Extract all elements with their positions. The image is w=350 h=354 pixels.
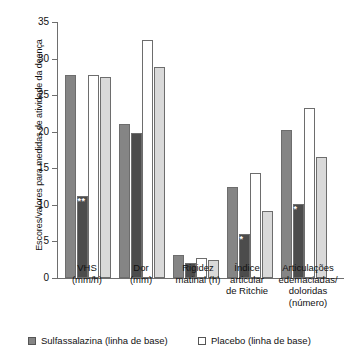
legend-label-sulfassalazina: Sulfassalazina (linha de base) — [41, 335, 168, 346]
legend-swatch-icon-sulfassalazina — [28, 337, 36, 345]
plot-area: 0 5 10 15 20 25 30 35 ** * * — [57, 22, 344, 278]
y-tick-20: 20 — [52, 132, 57, 133]
bar-placebo-base — [304, 108, 315, 278]
bar-placebo-base — [88, 75, 99, 278]
x-category-label-vhs: VHS(mm/h) — [56, 262, 118, 285]
y-tick-label-5: 5 — [43, 235, 49, 246]
y-tick-label-30: 30 — [38, 53, 49, 64]
y-tick-label-15: 15 — [38, 162, 49, 173]
y-tick-25: 25 — [52, 95, 57, 96]
x-category-label-line: Articulações — [266, 262, 350, 274]
bar-group-articulacoes: * — [281, 22, 327, 278]
bar-placebo-seguimento — [100, 77, 111, 278]
x-category-label-articulacoes: Articulaçõesedemaciadas/doloridas(número… — [266, 262, 350, 308]
chart-legend: Sulfassalazina (linha de base) Placebo (… — [0, 333, 350, 351]
bar-sulfassalazina-base — [281, 130, 292, 278]
y-tick-label-20: 20 — [38, 126, 49, 137]
legend-swatch-icon-placebo — [198, 337, 206, 345]
bar-placebo-seguimento — [154, 67, 165, 278]
y-axis-line — [57, 22, 58, 279]
significance-marker: ** — [78, 198, 86, 205]
significance-marker: * — [294, 206, 298, 213]
y-tick-30: 30 — [52, 59, 57, 60]
bar-sulfassalazina-seguimento — [131, 133, 142, 278]
bar-placebo-base — [142, 40, 153, 278]
x-category-label-line: doloridas — [266, 285, 350, 297]
y-tick-label-35: 35 — [38, 16, 49, 27]
bar-sulfassalazina-base — [119, 124, 130, 278]
legend-label-placebo: Placebo (linha de base) — [211, 335, 311, 346]
bar-sulfassalazina-base — [65, 75, 76, 278]
y-tick-10: 10 — [52, 205, 57, 206]
y-tick-label-25: 25 — [38, 89, 49, 100]
bar-group-rigidez — [173, 22, 219, 278]
y-tick-15: 15 — [52, 168, 57, 169]
significance-marker: * — [240, 236, 244, 243]
bar-group-indice-articular: * — [227, 22, 273, 278]
y-tick-35: 35 — [52, 22, 57, 23]
y-tick-label-0: 0 — [43, 272, 49, 283]
y-tick-label-10: 10 — [38, 199, 49, 210]
y-tick-5: 5 — [52, 241, 57, 242]
x-category-label-line: edemaciadas/ — [266, 274, 350, 286]
x-category-label-line: (número) — [266, 297, 350, 309]
legend-item-placebo: Placebo (linha de base) — [198, 335, 311, 346]
bar-placebo-seguimento — [316, 157, 327, 278]
legend-item-sulfassalazina: Sulfassalazina (linha de base) — [28, 335, 168, 346]
x-category-label-line: VHS — [56, 262, 118, 274]
bar-chart-figure: Escores/valores para medidas de atividad… — [0, 0, 350, 354]
bar-group-dor — [119, 22, 165, 278]
bar-group-vhs: ** — [65, 22, 111, 278]
x-category-label-line: (mm/h) — [56, 274, 118, 286]
